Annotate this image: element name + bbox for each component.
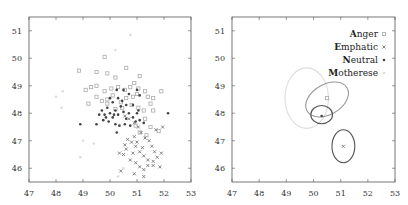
data-point (138, 150, 141, 153)
data-point (125, 148, 128, 151)
data-point (103, 55, 106, 58)
data-point (122, 111, 125, 114)
data-point (131, 95, 134, 98)
data-point (146, 159, 149, 162)
data-point (122, 89, 125, 92)
data-point (152, 160, 155, 163)
y-tick-label: 46 (215, 164, 225, 173)
x-tick-label: 49 (78, 189, 88, 198)
data-point (138, 75, 141, 78)
data-point (133, 172, 136, 175)
data-point (153, 150, 156, 153)
data-point (149, 102, 152, 105)
y-tick-label: 46 (12, 164, 22, 173)
data-point (134, 161, 137, 164)
data-point (136, 89, 139, 92)
data-point (95, 84, 98, 87)
data-point (114, 49, 117, 52)
data-point (125, 104, 128, 107)
data-point (100, 99, 103, 102)
data-point (148, 139, 151, 142)
data-point (114, 76, 117, 79)
data-point (123, 143, 126, 146)
legend: AngerEmphaticNeutralMotherese (328, 29, 385, 78)
data-point (87, 102, 90, 105)
data-point (142, 122, 145, 125)
data-point (161, 126, 164, 129)
data-point (77, 69, 80, 72)
data-point (107, 120, 110, 123)
data-point (134, 120, 137, 123)
legend-label-motherese: Motherese (328, 68, 378, 78)
data-point (119, 170, 122, 173)
data-point (114, 109, 117, 112)
data-point (122, 153, 125, 156)
data-point (320, 115, 323, 118)
data-point (113, 113, 116, 116)
data-point (109, 112, 112, 115)
data-point (93, 142, 96, 145)
x-tick-label: 53 (390, 189, 400, 198)
y-tick-label: 51 (12, 27, 22, 36)
data-point (132, 104, 135, 107)
data-point (109, 97, 112, 100)
figure: 47484950515253464748495051 4748495051525… (0, 0, 408, 205)
data-point (117, 113, 120, 116)
data-point (160, 152, 163, 155)
data-point (383, 72, 386, 75)
data-point (106, 102, 109, 105)
data-point (128, 93, 131, 96)
data-point (131, 152, 134, 155)
data-point (60, 106, 63, 109)
data-point (126, 138, 129, 141)
data-point (129, 86, 132, 89)
data-point (122, 167, 125, 170)
data-point (127, 117, 130, 120)
data-point (106, 98, 109, 101)
data-point (135, 92, 138, 95)
y-tick-label: 48 (12, 109, 22, 118)
data-point (55, 95, 58, 98)
data-point (138, 165, 141, 168)
data-point (138, 119, 141, 122)
data-point (130, 141, 133, 144)
data-point (152, 97, 155, 100)
data-point (123, 115, 126, 118)
scatter-plot-left: 47484950515253464748495051 (12, 17, 196, 198)
x-tick-label: 50 (105, 189, 115, 198)
data-point (115, 131, 118, 134)
y-tick-label: 48 (215, 109, 225, 118)
data-point (84, 88, 87, 91)
data-point (142, 168, 145, 171)
data-point (383, 59, 386, 62)
data-point (342, 145, 345, 148)
data-point (146, 95, 149, 98)
ellipse-motherese (285, 68, 328, 129)
x-tick-label: 53 (186, 189, 196, 198)
data-point (79, 123, 82, 126)
x-tick-label: 52 (159, 189, 169, 198)
x-tick-label: 51 (336, 189, 346, 198)
x-tick-label: 49 (281, 189, 291, 198)
data-point (115, 89, 118, 92)
data-point (95, 70, 98, 73)
x-tick-label: 51 (132, 189, 142, 198)
x-tick-label: 47 (24, 189, 34, 198)
data-point (383, 46, 386, 49)
data-point (142, 175, 145, 178)
data-point (114, 123, 117, 126)
data-point (121, 100, 124, 103)
data-point (133, 135, 136, 138)
data-point (111, 94, 114, 97)
data-point (160, 90, 163, 93)
data-point (129, 34, 132, 37)
y-tick-label: 47 (12, 137, 22, 146)
data-point (125, 66, 128, 69)
x-tick-label: 52 (363, 189, 373, 198)
y-tick-label: 47 (215, 137, 225, 146)
data-point (103, 113, 106, 116)
plot-frame (29, 17, 191, 182)
data-point (167, 112, 170, 115)
data-point (117, 86, 120, 89)
data-point (118, 124, 121, 127)
